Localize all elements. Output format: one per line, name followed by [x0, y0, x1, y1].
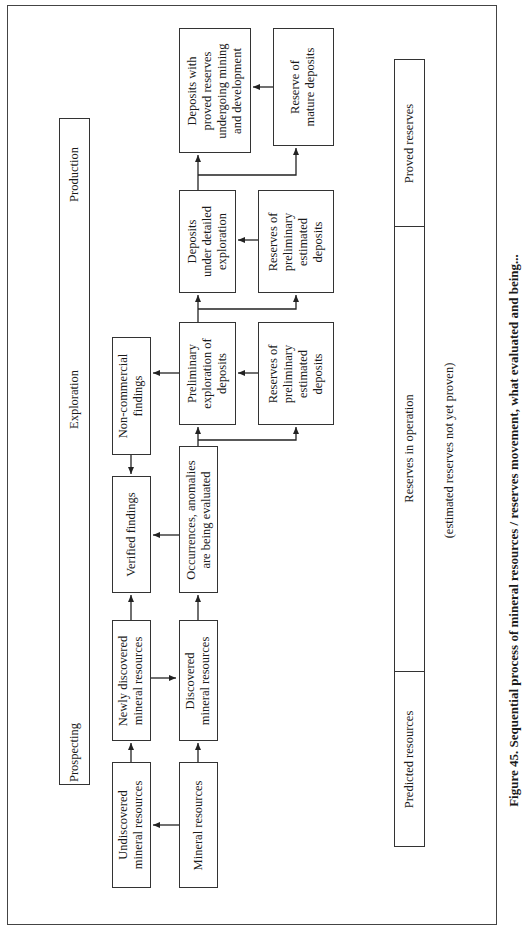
estimated-note: (estimated reserves not yet proven) — [440, 300, 460, 600]
predicted-resources-label: Predicted resources — [402, 711, 417, 809]
segment-predicted-resources: Predicted resources — [395, 671, 424, 848]
node-reserve-mature: Reserve ofmature deposits — [273, 28, 334, 146]
stage-production: Production — [60, 119, 89, 229]
node-discovered: Discoveredmineral resources — [179, 620, 218, 741]
node-undiscovered: Undiscoveredmineral resources — [112, 762, 151, 888]
stages-bar: Production Exploration Prospecting — [59, 118, 90, 785]
node-prelim-exploration: Preliminaryexploration ofdeposits — [179, 322, 236, 425]
stage-exploration: Exploration — [60, 349, 89, 449]
node-verified: Verified findings — [112, 476, 151, 593]
segment-proved-reserves: Proved reserves — [395, 60, 424, 226]
stage-production-label: Production — [67, 147, 82, 202]
node-non-commercial: Non-commercialfindings — [112, 337, 151, 455]
proved-reserves-label: Proved reserves — [402, 103, 417, 183]
node-deposits-detailed: Depositsunder detailedexploration — [179, 190, 236, 293]
stage-prospecting: Prospecting — [60, 719, 89, 786]
figure-caption: Figure 45. Sequential process of mineral… — [503, 170, 523, 890]
stage-exploration-label: Exploration — [67, 369, 82, 428]
node-reserves-prelim-lower: Reserves ofpreliminaryestimateddeposits — [258, 322, 334, 425]
stage-prospecting-label: Prospecting — [67, 723, 82, 782]
node-deposits-proved: Deposits withproved reservesundergoing m… — [179, 28, 251, 153]
figure-caption-text: Figure 45. Sequential process of mineral… — [506, 254, 521, 807]
reserves-bar: Proved reserves Reserves in operation Pr… — [394, 59, 425, 847]
node-mineral-resources: Mineral resources — [179, 762, 218, 888]
reserves-in-operation-label: Reserves in operation — [402, 394, 417, 502]
estimated-note-label: (estimated reserves not yet proven) — [443, 362, 458, 538]
node-reserves-prelim-upper: Reserves ofpreliminaryestimateddeposits — [258, 190, 334, 293]
node-newly-discovered: Newly discoveredmineral resources — [112, 620, 151, 741]
segment-reserves-in-operation: Reserves in operation — [395, 226, 424, 671]
node-occurrences: Occurrences, anomaliesare being evaluate… — [179, 446, 218, 593]
